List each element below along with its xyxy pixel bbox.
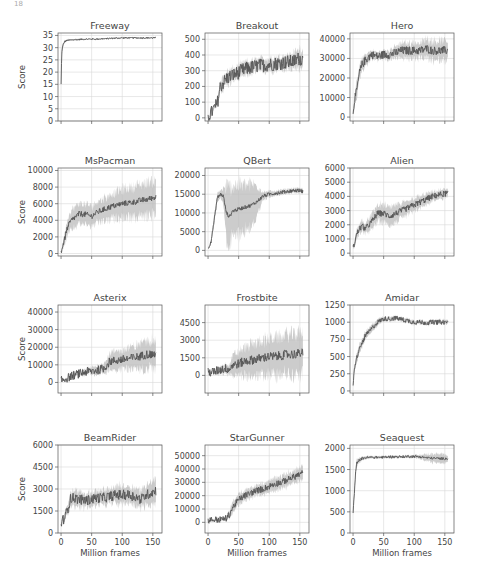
axes-frame — [58, 33, 162, 121]
y-tick-label: 4500 — [33, 463, 53, 472]
subplot-title: Frostbite — [236, 292, 277, 303]
confidence-band — [353, 452, 448, 515]
y-tick-label: 6000 — [325, 164, 345, 173]
subplot-hero: Hero010000200003000040000 — [320, 20, 454, 124]
y-tick-label: 20000 — [175, 492, 200, 501]
y-tick-label: 300 — [185, 67, 200, 76]
y-tick-label: 10000 — [175, 505, 200, 514]
y-tick-label: 15 — [43, 80, 53, 89]
y-tick-label: 2000 — [325, 444, 345, 453]
subplot-stargunner: StarGunner010000200003000040000500000501… — [175, 432, 309, 558]
subplot-frostbite: Frostbite0150030004500 — [180, 292, 309, 396]
x-tick-label: 50 — [379, 538, 389, 547]
subplot-title: Hero — [391, 20, 414, 31]
y-tick-label: 10000 — [28, 361, 53, 370]
y-tick-label: 5000 — [180, 228, 200, 237]
subplot-mspacman: MsPacman0200040006000800010000Score — [17, 155, 162, 259]
y-axis-label: Score — [17, 65, 27, 89]
x-tick-label: 100 — [115, 538, 130, 547]
y-axis-label: Score — [17, 477, 27, 501]
confidence-band — [208, 44, 303, 119]
mean-line — [353, 455, 448, 513]
y-tick-label: 10000 — [28, 166, 53, 175]
y-tick-label: 500 — [330, 508, 345, 517]
subplot-qbert: QBert05000100001500020000 — [175, 155, 309, 259]
y-tick-label: 0 — [48, 529, 53, 538]
y-tick-label: 40000 — [28, 308, 53, 317]
subplot-title: Seaquest — [380, 432, 425, 443]
y-tick-label: 0 — [195, 518, 200, 527]
y-tick-label: 30000 — [320, 54, 345, 63]
y-tick-label: 1250 — [325, 301, 345, 310]
y-tick-label: 3000 — [180, 336, 200, 345]
subplot-title: MsPacman — [85, 155, 136, 166]
x-tick-label: 150 — [437, 538, 452, 547]
subplot-title: BeamRider — [84, 432, 137, 443]
y-tick-label: 0 — [195, 246, 200, 255]
y-tick-label: 250 — [330, 370, 345, 379]
figure-grid: Freeway05101520253035ScoreBreakout010020… — [0, 0, 478, 562]
x-tick-label: 0 — [206, 538, 211, 547]
y-tick-label: 30000 — [175, 478, 200, 487]
y-tick-label: 10 — [43, 93, 53, 102]
subplot-beamrider: BeamRider01500300045006000050100150Score… — [17, 432, 162, 558]
y-tick-label: 750 — [330, 335, 345, 344]
mean-line — [353, 316, 448, 386]
subplot-title: Amidar — [385, 292, 419, 303]
y-axis-label: Score — [17, 337, 27, 361]
subplot-title: Breakout — [236, 20, 279, 31]
y-tick-label: 0 — [195, 114, 200, 123]
y-tick-label: 4000 — [325, 192, 345, 201]
y-tick-label: 500 — [330, 353, 345, 362]
y-tick-label: 50000 — [175, 452, 200, 461]
y-tick-label: 4500 — [180, 319, 200, 328]
subplot-amidar: Amidar025050075010001250 — [325, 292, 454, 396]
y-tick-label: 0 — [340, 249, 345, 258]
y-tick-label: 10000 — [175, 209, 200, 218]
x-tick-label: 0 — [351, 538, 356, 547]
y-tick-label: 1500 — [180, 354, 200, 363]
axes-frame — [205, 33, 309, 121]
y-tick-label: 5 — [48, 105, 53, 114]
x-axis-label: Million frames — [372, 548, 432, 558]
subplot-title: Asterix — [93, 292, 127, 303]
y-tick-label: 20000 — [320, 74, 345, 83]
subplot-freeway: Freeway05101520253035Score — [17, 20, 162, 126]
y-tick-label: 0 — [340, 387, 345, 396]
mean-line — [61, 37, 156, 84]
y-tick-label: 1000 — [325, 235, 345, 244]
y-axis-label: Score — [17, 200, 27, 224]
y-tick-label: 20000 — [175, 171, 200, 180]
confidence-band — [353, 314, 448, 387]
y-tick-label: 40000 — [320, 35, 345, 44]
y-tick-label: 2000 — [33, 233, 53, 242]
y-tick-label: 0 — [340, 113, 345, 122]
x-tick-label: 50 — [87, 538, 97, 547]
y-tick-label: 3000 — [325, 207, 345, 216]
subplot-title: Alien — [390, 155, 414, 166]
y-tick-label: 0 — [340, 529, 345, 538]
x-tick-label: 100 — [262, 538, 277, 547]
y-tick-label: 2000 — [325, 221, 345, 230]
subplot-title: Freeway — [90, 20, 130, 31]
y-tick-label: 500 — [185, 35, 200, 44]
y-tick-label: 35 — [43, 31, 53, 40]
y-tick-label: 1500 — [325, 466, 345, 475]
y-tick-label: 100 — [185, 98, 200, 107]
y-tick-label: 8000 — [33, 183, 53, 192]
y-tick-label: 40000 — [175, 465, 200, 474]
y-tick-label: 0 — [48, 250, 53, 259]
y-tick-label: 3000 — [33, 485, 53, 494]
y-tick-label: 1000 — [325, 318, 345, 327]
subplot-alien: Alien0100020003000400050006000 — [325, 155, 454, 259]
y-tick-label: 30 — [43, 44, 53, 53]
y-tick-label: 1000 — [325, 487, 345, 496]
y-tick-label: 30000 — [28, 326, 53, 335]
y-tick-label: 20 — [43, 68, 53, 77]
mean-line — [208, 53, 303, 121]
x-axis-label: Million frames — [227, 548, 287, 558]
y-tick-label: 20000 — [28, 343, 53, 352]
subplot-title: StarGunner — [230, 432, 285, 443]
x-axis-label: Million frames — [80, 548, 140, 558]
x-tick-label: 100 — [407, 538, 422, 547]
